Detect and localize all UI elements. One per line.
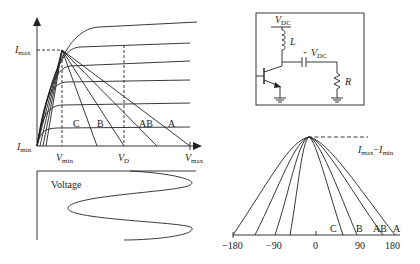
class-label-ab: AB — [373, 223, 387, 234]
imin-label: Imin — [16, 141, 32, 154]
load-line-c — [62, 50, 97, 146]
cap-plus-label: + — [303, 49, 307, 57]
tick-label-180: 180 — [385, 240, 400, 251]
imax-label: Imax — [14, 44, 31, 57]
vmax-label: Vmax — [185, 152, 204, 165]
tick-label-m180: −180 — [222, 240, 243, 251]
voltage-waveform — [68, 171, 192, 240]
class-label-c: C — [330, 223, 337, 234]
load-label-c: C — [73, 118, 80, 129]
tick-label-0: 0 — [313, 240, 318, 251]
class-label-a: A — [393, 223, 401, 234]
resistor-icon — [334, 73, 340, 89]
tick-label-m90: −90 — [266, 240, 282, 251]
inductor-icon — [282, 30, 285, 50]
vdc-top-label: VDC — [275, 14, 291, 27]
resistor-label: R — [344, 76, 351, 87]
vmin-label: Vmin — [56, 152, 73, 165]
amplitude-label: Imax−Imin — [357, 144, 394, 157]
vdc-cap-label: VDC — [311, 47, 327, 60]
load-label-a: A — [168, 118, 176, 129]
figure: Imax Imin Vmin VD Vmax C B AB A Voltage … — [0, 0, 420, 264]
x-axis-arrow-icon — [193, 142, 202, 150]
collector — [264, 66, 282, 72]
inductor-label: L — [289, 36, 296, 47]
iv-chart — [33, 17, 202, 150]
circuit — [256, 13, 364, 105]
load-line-a — [62, 50, 190, 146]
pulse-class-b — [275, 137, 357, 235]
y-axis-arrow-icon — [33, 17, 41, 26]
tick-label-90: 90 — [355, 240, 365, 251]
voltage-label: Voltage — [51, 179, 82, 190]
load-label-b: B — [97, 118, 104, 129]
load-label-ab: AB — [139, 118, 153, 129]
pulse-class-c — [290, 137, 343, 235]
vd-label: VD — [118, 152, 129, 165]
iv-curve — [37, 80, 190, 146]
class-label-b: B — [356, 223, 363, 234]
